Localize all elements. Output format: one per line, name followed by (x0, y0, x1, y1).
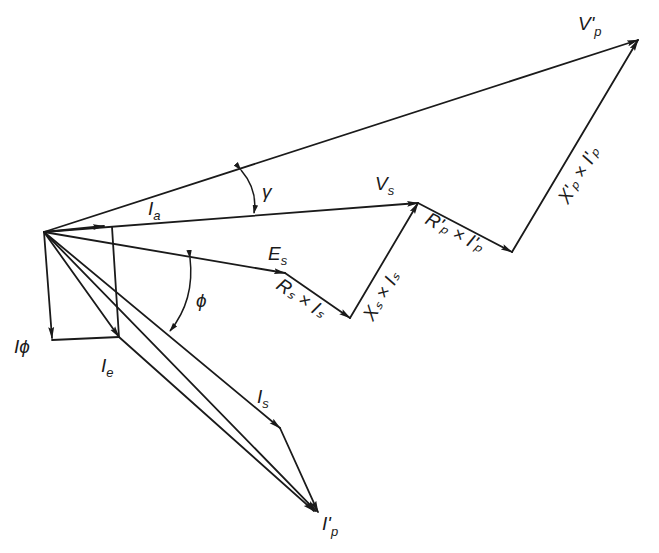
es-phasor (44, 232, 285, 273)
is-ip-connector (280, 428, 318, 512)
vp-prime-label: V'p (578, 13, 602, 39)
vs-label: Vs (375, 173, 395, 198)
i-phi-phasor (44, 232, 52, 338)
xp-ip-label: X'ₚ × I'ₚ (553, 142, 604, 208)
vs-phasor (44, 203, 418, 232)
phasor-diagram: V'p Vs Ia Es Iϕ Ie Is I'p γ ϕ Rₛ × Iₛ Xₛ… (0, 0, 659, 553)
is-label: Is (257, 386, 269, 411)
es-label: Es (268, 243, 288, 268)
ie-label: Ie (101, 355, 114, 380)
ia-label: Ia (148, 198, 161, 223)
rs-is-label: Rₛ × Iₛ (273, 274, 331, 323)
xp-ip-phasor (512, 40, 638, 252)
ip-prime-label: I'p (322, 513, 338, 539)
vp-prime-phasor (44, 40, 638, 232)
phi-label: ϕ (196, 290, 207, 311)
ip-prime-phasor (44, 232, 316, 511)
ie-ip-connector (119, 337, 314, 511)
i-phi-ie-connector (52, 337, 119, 340)
rp-ip-label: R'ₚ × I'ₚ (422, 208, 489, 257)
is-phasor (44, 232, 280, 428)
xs-is-label: Xₛ × Iₛ (358, 266, 405, 324)
gamma-label: γ (262, 181, 273, 202)
phi-arc (170, 258, 191, 331)
i-phi-label: Iϕ (14, 336, 30, 357)
gamma-arc (241, 170, 255, 213)
